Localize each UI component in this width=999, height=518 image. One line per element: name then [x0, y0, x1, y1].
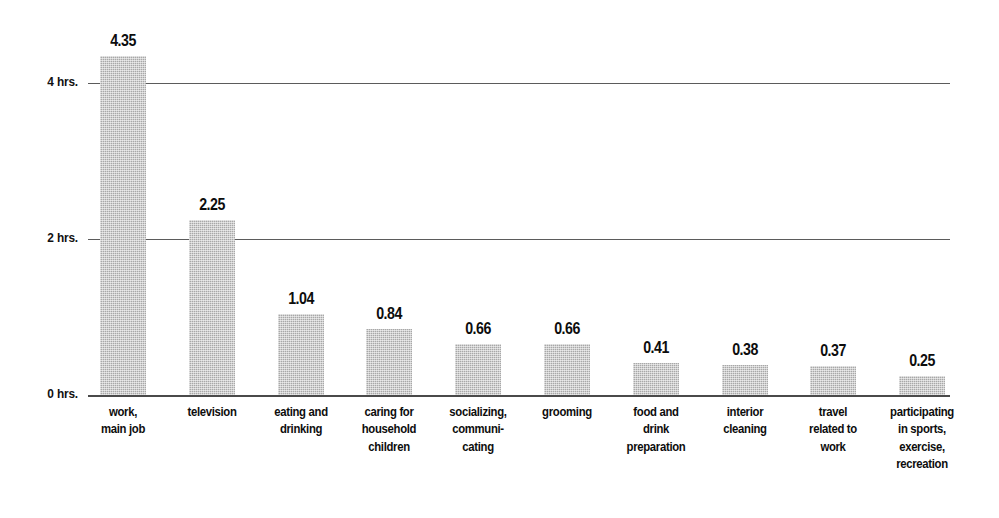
category-label-line: main job — [76, 421, 170, 438]
bar-chart: 0 hrs.2 hrs.4 hrs. 4.352.251.040.840.660… — [0, 0, 999, 518]
category-label: travelrelated towork — [787, 404, 881, 456]
category-label-line: caring for — [343, 404, 437, 421]
bar-value-label: 0.84 — [351, 305, 428, 322]
category-label-line: socializing, — [431, 404, 525, 421]
y-axis-tick-label: 0 hrs. — [9, 386, 78, 401]
plot-area: 0 hrs.2 hrs.4 hrs. 4.352.251.040.840.660… — [0, 0, 999, 518]
category-label-line: drink — [609, 421, 703, 438]
category-label-line: food and — [609, 404, 703, 421]
category-label-line: drinking — [254, 421, 348, 438]
category-label-line: television — [165, 404, 259, 421]
bar — [100, 56, 146, 395]
bar — [189, 220, 235, 396]
bar-value-label: 1.04 — [262, 290, 339, 307]
category-label-line: in sports, — [875, 421, 969, 438]
y-axis-tick-label: 4 hrs. — [9, 74, 78, 89]
bar — [544, 344, 590, 395]
category-label-line: participating — [875, 404, 969, 421]
bar — [899, 376, 945, 396]
category-label-line: eating and — [254, 404, 348, 421]
category-label: grooming — [520, 404, 614, 421]
category-label-line: work, — [76, 404, 170, 421]
category-label-line: work — [787, 439, 881, 456]
gridline-4hrs — [88, 83, 950, 84]
category-label-line: cleaning — [698, 421, 792, 438]
category-label: socializing,communi-cating — [431, 404, 525, 456]
category-label-line: children — [343, 439, 437, 456]
category-label-line: communi- — [431, 421, 525, 438]
bar-value-label: 0.25 — [883, 352, 960, 369]
bar — [633, 363, 679, 395]
bar — [455, 344, 501, 395]
category-label-line: related to — [787, 421, 881, 438]
y-axis-tick-label: 2 hrs. — [9, 230, 78, 245]
category-label: caring forhouseholdchildren — [343, 404, 437, 456]
bar — [366, 329, 412, 395]
category-label: interiorcleaning — [698, 404, 792, 439]
bar-value-label: 2.25 — [173, 196, 250, 213]
axis-baseline — [88, 395, 950, 397]
category-label: eating anddrinking — [254, 404, 348, 439]
category-label-line: exercise, — [875, 439, 969, 456]
category-label: television — [165, 404, 259, 421]
category-label-line: preparation — [609, 439, 703, 456]
bar-value-label: 4.35 — [84, 32, 161, 49]
bar-value-label: 0.38 — [706, 341, 783, 358]
bar-value-label: 0.37 — [795, 342, 872, 359]
category-label-line: grooming — [520, 404, 614, 421]
category-label-line: travel — [787, 404, 881, 421]
category-label: food anddrinkpreparation — [609, 404, 703, 456]
bar — [278, 314, 324, 395]
category-label-line: household — [343, 421, 437, 438]
bar — [722, 365, 768, 395]
category-label-line: cating — [431, 439, 525, 456]
category-label-line: interior — [698, 404, 792, 421]
bar — [810, 366, 856, 395]
category-label: work,main job — [76, 404, 170, 439]
bar-value-label: 0.41 — [617, 339, 694, 356]
category-label-line: recreation — [875, 456, 969, 473]
bar-value-label: 0.66 — [528, 320, 605, 337]
bar-value-label: 0.66 — [439, 320, 516, 337]
category-label: participatingin sports,exercise,recreati… — [875, 404, 969, 474]
